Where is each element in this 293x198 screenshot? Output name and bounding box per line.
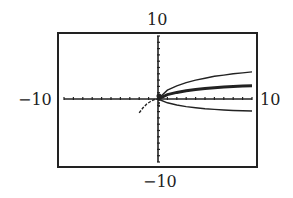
graph-window: [0, 0, 293, 198]
curves: [139, 72, 252, 113]
lower-curve: [158, 99, 252, 111]
left-branch: [139, 99, 158, 113]
origin-marker: [157, 94, 162, 99]
